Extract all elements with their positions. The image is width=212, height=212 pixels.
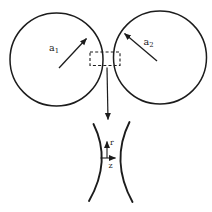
neck-left-surface-curve xyxy=(89,124,102,201)
r-axis-label: r xyxy=(110,138,114,147)
radius-a2-label: a2 xyxy=(144,36,154,49)
radius-a1-arrow xyxy=(59,39,87,69)
contact-spheres-diagram: a1 a2 r z xyxy=(0,0,212,212)
sphere-1-circle xyxy=(10,13,103,106)
radius-a1-label-subscript: 1 xyxy=(55,47,59,55)
sphere-2-circle xyxy=(114,11,207,104)
neck-right-surface-curve xyxy=(120,122,132,202)
figure-canvas: a1 a2 r z xyxy=(0,0,212,212)
z-axis-label: z xyxy=(109,161,113,170)
radius-a2-label-subscript: 2 xyxy=(149,41,153,49)
magnify-arrow xyxy=(107,68,108,120)
radius-a1-label: a1 xyxy=(49,42,59,55)
contact-region-dashed-box xyxy=(90,52,120,66)
